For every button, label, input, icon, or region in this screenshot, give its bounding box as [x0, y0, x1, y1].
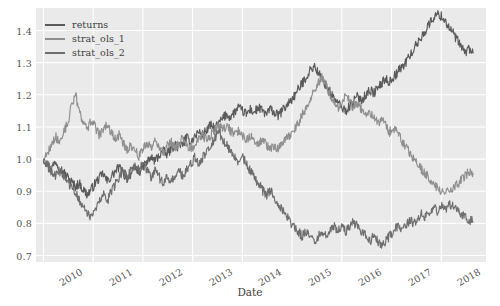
x-tick-label: 2013: [207, 266, 234, 288]
legend-swatch-strat-ols-1: [45, 38, 65, 40]
series-line-strat-ols-1: [43, 74, 473, 195]
x-tick-label: 2012: [157, 266, 184, 288]
legend: returns strat_ols_1 strat_ols_2: [41, 17, 129, 63]
x-tick-label: 2011: [108, 266, 135, 288]
x-tick-label: 2017: [406, 266, 433, 288]
x-tick-label: 2016: [356, 266, 383, 288]
y-tick-label: 0.8: [16, 218, 32, 229]
x-tick-label: 2010: [58, 266, 85, 288]
x-tick-label: 2018: [456, 266, 483, 288]
legend-item-strat-ols-2: strat_ols_2: [45, 47, 125, 59]
y-tick-label: 1.1: [16, 121, 32, 132]
x-tick-label: 2015: [306, 266, 333, 288]
y-tick-label: 1.3: [16, 57, 32, 68]
chart-figure: 1.41.31.21.11.00.90.80.7 201020112012201…: [0, 0, 500, 306]
x-tick-label: 2014: [257, 266, 284, 288]
y-tick-label: 1.0: [16, 154, 32, 165]
legend-item-strat-ols-1: strat_ols_1: [45, 33, 125, 45]
legend-swatch-strat-ols-2: [45, 52, 65, 54]
y-tick-label: 1.2: [16, 89, 32, 100]
legend-label-strat-ols-1: strat_ols_1: [72, 33, 125, 44]
y-tick-label: 1.4: [16, 25, 32, 36]
legend-label-returns: returns: [72, 19, 108, 30]
legend-swatch-returns: [45, 24, 65, 26]
x-axis-title: Date: [0, 286, 500, 298]
y-tick-label: 0.7: [16, 250, 32, 261]
legend-label-strat-ols-2: strat_ols_2: [72, 47, 125, 58]
y-axis-ticks: 1.41.31.21.11.00.90.80.7: [0, 0, 36, 306]
legend-item-returns: returns: [45, 19, 125, 31]
y-tick-label: 0.9: [16, 186, 32, 197]
